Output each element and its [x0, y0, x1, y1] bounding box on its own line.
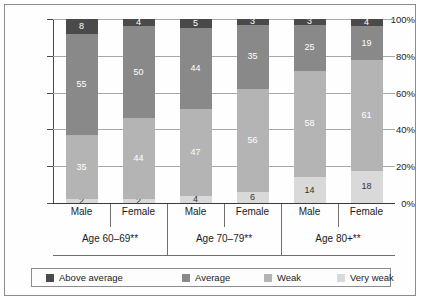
bar-segment-value: 35	[76, 163, 86, 172]
x-axis-label-female: Female	[225, 206, 281, 217]
legend-label: Above average	[59, 272, 123, 283]
chart-frame: 0%20%40%60%80%100% 855352450442544474335…	[4, 4, 416, 296]
x-axis-separator-inner	[338, 204, 339, 227]
x-axis-separator-inner	[224, 204, 225, 227]
x-axis-label-male: Male	[168, 206, 224, 217]
bar-segment-average: 50	[123, 26, 155, 118]
x-axis-label-female: Female	[339, 206, 395, 217]
bar-segment-average: 55	[66, 34, 98, 135]
bar-segment-weak: 47	[180, 109, 212, 195]
bar-male-5[interactable]: 3255814	[294, 19, 326, 203]
bar-segment-average: 25	[294, 25, 326, 71]
gridline	[53, 19, 395, 20]
legend-label: Average	[195, 272, 230, 283]
bar-segment-value: 35	[247, 52, 257, 61]
bar-segment-weak: 44	[123, 118, 155, 199]
bar-segment-value: 61	[361, 111, 371, 120]
bar-segment-value: 4	[364, 19, 369, 26]
bar-segment-weak: 58	[294, 71, 326, 178]
gridline	[53, 129, 395, 130]
bar-segment-average: 19	[351, 26, 383, 60]
bar-segment-value: 44	[190, 64, 200, 73]
gridline	[53, 166, 395, 167]
bar-segment-value: 19	[361, 39, 371, 48]
bar-male-3[interactable]: 544474	[180, 19, 212, 203]
legend-label: Weak	[277, 272, 301, 283]
bar-segment-value: 25	[304, 43, 314, 52]
bar-segment-value: 47	[190, 148, 200, 157]
bar-segment-very-weak: 6	[237, 192, 269, 203]
x-axis-separator-group	[281, 204, 282, 256]
bar-segment-very-weak: 4	[180, 196, 212, 203]
x-axis-label-male: Male	[54, 206, 110, 217]
legend-swatch-icon	[46, 274, 54, 282]
bar-segment-above-average: 4	[351, 19, 383, 26]
bar-segment-value: 14	[304, 186, 314, 195]
bar-segment-value: 5	[193, 19, 198, 28]
bar-segment-very-weak: 2	[123, 199, 155, 203]
chart-legend: Above averageAverageWeakVery weak	[31, 268, 391, 287]
bar-male-1[interactable]: 855352	[66, 19, 98, 203]
bar-segment-above-average: 5	[180, 19, 212, 28]
bar-female-2[interactable]: 450442	[123, 19, 155, 203]
x-axis-base-rule	[53, 255, 395, 256]
bar-female-6[interactable]: 4196118	[351, 19, 383, 203]
bar-segment-weak: 61	[351, 60, 383, 170]
legend-item-weak[interactable]: Weak	[264, 272, 301, 283]
bar-female-4[interactable]: 335566	[237, 19, 269, 203]
bar-segment-above-average: 8	[66, 19, 98, 34]
bar-segment-value: 2	[136, 199, 141, 203]
bar-segment-very-weak: 14	[294, 177, 326, 203]
bar-segment-very-weak: 18	[351, 171, 383, 203]
bar-segment-value: 18	[361, 182, 371, 191]
legend-item-very-weak[interactable]: Very weak	[337, 272, 394, 283]
bar-segment-value: 8	[79, 22, 84, 31]
x-axis-group-label: Age 60–69**	[53, 233, 167, 244]
bar-segment-value: 58	[304, 119, 314, 128]
gridline	[53, 56, 395, 57]
x-axis-separator-inner	[110, 204, 111, 227]
bar-segment-average: 44	[180, 28, 212, 109]
bar-segment-weak: 35	[66, 135, 98, 199]
legend-swatch-icon	[264, 274, 272, 282]
bar-segment-value: 50	[133, 68, 143, 77]
legend-label: Very weak	[350, 272, 394, 283]
legend-item-above-average[interactable]: Above average	[46, 272, 123, 283]
bar-segment-above-average: 4	[123, 19, 155, 26]
bar-segment-weak: 56	[237, 89, 269, 192]
gridline	[53, 93, 395, 94]
legend-item-average[interactable]: Average	[182, 272, 230, 283]
bar-segment-value: 2	[79, 199, 84, 203]
x-axis-group-label: Age 70–79**	[167, 233, 281, 244]
bar-segment-value: 55	[76, 80, 86, 89]
legend-swatch-icon	[182, 274, 190, 282]
x-axis-label-female: Female	[111, 206, 167, 217]
legend-swatch-icon	[337, 274, 345, 282]
y-axis-tick-mark	[47, 203, 53, 204]
bar-segment-value: 56	[247, 136, 257, 145]
plot-area: 85535245044254447433556632558144196118	[53, 19, 395, 203]
bar-segment-value: 4	[136, 19, 141, 26]
bar-segment-value: 44	[133, 154, 143, 163]
x-axis-separator-group	[167, 204, 168, 256]
x-axis-group-label: Age 80+**	[281, 233, 395, 244]
bar-segment-value: 6	[250, 193, 255, 202]
bar-segment-average: 35	[237, 25, 269, 89]
bar-segment-value: 4	[193, 196, 198, 203]
bar-segment-very-weak: 2	[66, 199, 98, 203]
x-axis-label-male: Male	[282, 206, 338, 217]
